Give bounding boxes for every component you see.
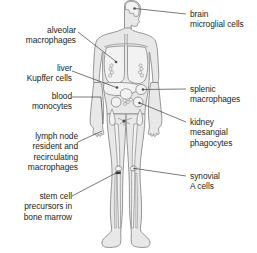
left-fibula-shape: [114, 173, 116, 228]
body-outline-group: [90, 1, 162, 248]
left-leg-shape: [102, 114, 126, 247]
left-knee-joint: [115, 166, 121, 171]
right-lung-shape: [128, 46, 148, 84]
label-lymph-node-macrophages: lymph node resident and recirculating ma…: [2, 131, 78, 173]
left-lung-shape: [104, 46, 124, 84]
label-alveolar-macrophages: alveolar macrophages: [2, 25, 76, 46]
label-synovial-a-cells: synovial A cells: [190, 171, 256, 192]
right-kidney-shape: [133, 97, 143, 107]
right-leg-shape: [126, 114, 150, 247]
right-fibula-shape: [135, 173, 137, 228]
label-brain-microglial-cells: brain microglial cells: [190, 9, 256, 30]
stomach-shape: [120, 89, 132, 99]
inguinal-lymph-node-target: [122, 119, 125, 122]
anatomy-figure: alveolar macrophages liver Kupffer cells…: [0, 0, 257, 253]
leader-lymph-node: [78, 131, 102, 142]
leader-stem-cell: [72, 173, 117, 197]
left-kidney-shape: [111, 97, 121, 107]
label-splenic-macrophages: splenic macrophages: [190, 84, 256, 105]
label-kidney-mesangial-phagocytes: kidney mesangial phagocytes: [190, 117, 256, 148]
leader-synovial: [135, 169, 186, 177]
leader-brain: [135, 9, 186, 15]
leader-splenic: [144, 89, 187, 90]
label-liver-kupffer-cells: liver Kupffer cells: [2, 63, 72, 84]
label-stem-cell-precursors: stem cell precursors in bone marrow: [2, 191, 72, 222]
label-blood-monocytes: blood monocytes: [2, 91, 72, 112]
leader-kidney: [140, 103, 186, 122]
